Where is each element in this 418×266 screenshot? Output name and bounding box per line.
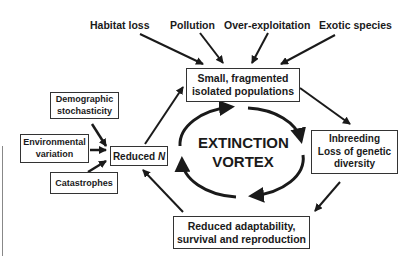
arrow-catastrophes (88, 161, 106, 172)
arrow-inbreeding-to-adaptability (315, 182, 340, 211)
node-reduced-n-var: N (158, 151, 165, 162)
factor-catastrophes: Catastrophes (50, 172, 118, 194)
arrow-adaptability-to-reducedN (143, 170, 183, 212)
arrow-reducedN-to-small (145, 87, 183, 144)
factor-demographic-line1: Demographic (56, 94, 114, 106)
node-small-line1: Small, fragmented (197, 72, 288, 85)
arrow-small-to-inbreeding (300, 88, 350, 124)
center-line2: VORTEX (198, 152, 288, 171)
node-inbreeding-line1: Inbreeding (329, 133, 380, 146)
factor-environmental-variation: Environmental variation (20, 134, 89, 163)
node-inbreeding-line2: Loss of genetic (318, 146, 391, 159)
threat-exotic-species: Exotic species (319, 20, 392, 31)
center-line1: EXTINCTION (198, 133, 288, 152)
arrow-habitat-loss (140, 34, 203, 64)
node-small-line2: isolated populations (192, 85, 294, 98)
node-small-fragmented-populations: Small, fragmented isolated populations (186, 68, 300, 102)
node-adaptability-line1: Reduced adaptability, (188, 220, 296, 233)
threat-habitat-loss: Habitat loss (90, 20, 150, 31)
node-adaptability-line2: survival and reproduction (177, 233, 306, 246)
node-reduced-n: Reduced N (110, 146, 168, 166)
center-label-extinction-vortex: EXTINCTION VORTEX (198, 133, 288, 171)
factor-environmental-line2: variation (36, 149, 74, 161)
node-reduced-adaptability: Reduced adaptability, survival and repro… (173, 216, 310, 249)
threat-pollution: Pollution (170, 20, 215, 31)
node-inbreeding: Inbreeding Loss of genetic diversity (311, 130, 398, 174)
arrow-overexploitation (252, 33, 268, 63)
node-reduced-n-prefix: Reduced (113, 151, 158, 162)
factor-demographic-line2: stochasticity (57, 106, 112, 118)
arrow-pollution (200, 33, 223, 63)
node-inbreeding-line3: diversity (334, 158, 375, 171)
arrow-exotic-species (281, 35, 335, 64)
arrow-demographic (92, 124, 106, 146)
factor-environmental-line1: Environmental (23, 137, 86, 149)
factor-demographic-stochasticity: Demographic stochasticity (50, 92, 119, 119)
threat-over-exploitation: Over-exploitation (224, 20, 310, 31)
factor-catastrophes-label: Catastrophes (55, 178, 113, 188)
